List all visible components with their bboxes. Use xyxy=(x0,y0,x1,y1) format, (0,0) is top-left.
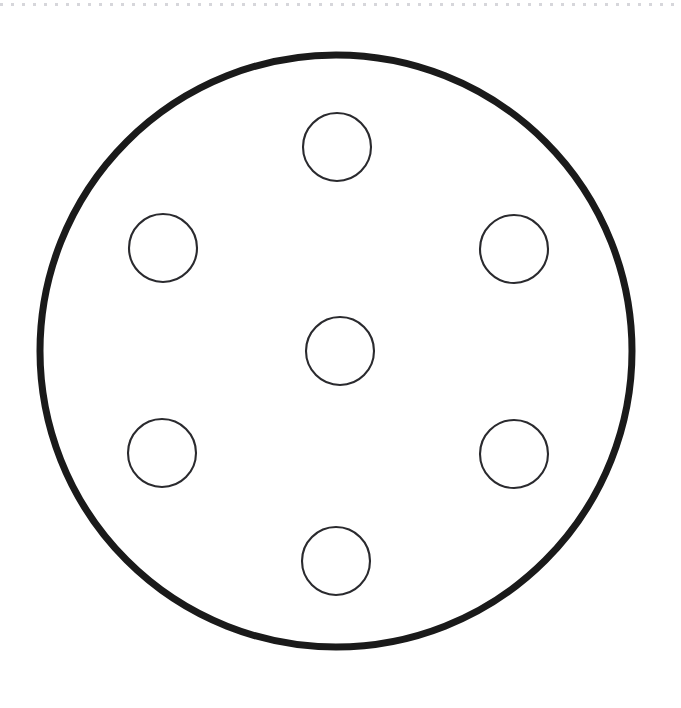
bolt-hole-upper-right xyxy=(480,215,548,283)
drawing-canvas xyxy=(0,0,681,708)
bolt-hole-top xyxy=(303,113,371,181)
bolt-hole-lower-left xyxy=(128,419,196,487)
bolt-hole-bottom xyxy=(302,527,370,595)
center-hole xyxy=(306,317,374,385)
bolt-hole-upper-left xyxy=(129,214,197,282)
flange-drawing xyxy=(0,0,681,708)
bolt-hole-lower-right xyxy=(480,420,548,488)
